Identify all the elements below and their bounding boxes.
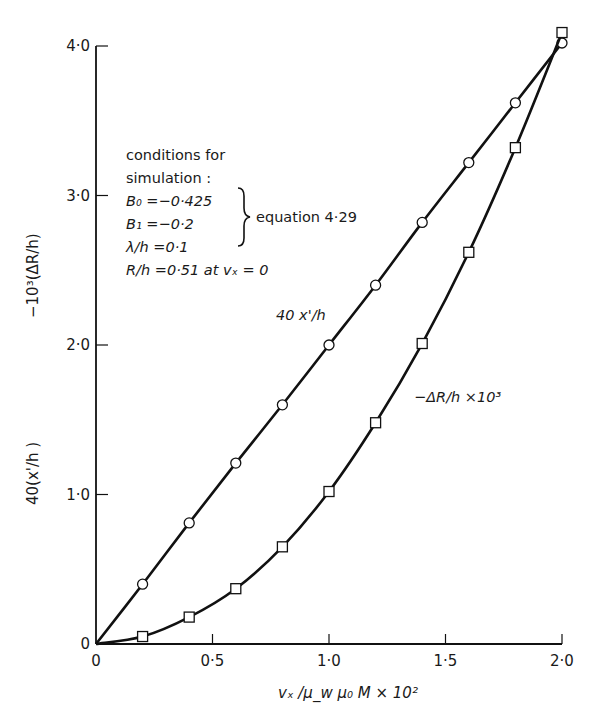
x-tick-label: 1·0 xyxy=(317,652,341,670)
series-label-circle: 40 x'/h xyxy=(276,307,326,323)
circle-marker-icon xyxy=(231,458,241,468)
square-marker-icon xyxy=(277,542,287,552)
square-marker-icon xyxy=(184,612,194,622)
y-tick-label: 3·0 xyxy=(66,187,90,205)
circle-marker-icon xyxy=(417,217,427,227)
conditions-b1: B₁ =−0·2 xyxy=(126,216,194,232)
square-marker-icon xyxy=(557,28,567,38)
square-marker-icon xyxy=(417,339,427,349)
x-tick-label: 0·5 xyxy=(201,652,225,670)
conditions-line-2: simulation : xyxy=(126,170,211,186)
conditions-annotation: conditions for simulation : B₀ =−0·425 B… xyxy=(125,147,357,278)
circle-marker-icon xyxy=(371,280,381,290)
circle-marker-icon xyxy=(138,579,148,589)
y-axis-label-top: −10³(ΔR/h) xyxy=(24,233,42,318)
y-tick-label: 1·0 xyxy=(66,486,90,504)
series-circle xyxy=(96,38,567,644)
circle-marker-icon xyxy=(184,518,194,528)
conditions-b0: B₀ =−0·425 xyxy=(126,193,212,209)
brace-icon xyxy=(238,188,250,246)
chart: 00·51·01·52·001·02·03·04·0 40(x'/h ) −10… xyxy=(0,0,598,723)
y-axis-label-bottom: 40(x'/h ) xyxy=(24,442,42,505)
series-label-square: −ΔR/h ×10³ xyxy=(414,389,501,405)
square-marker-icon xyxy=(510,143,520,153)
circle-marker-icon xyxy=(464,158,474,168)
x-tick-label: 0 xyxy=(91,652,101,670)
square-marker-icon xyxy=(464,247,474,257)
conditions-line-1: conditions for xyxy=(126,147,225,163)
square-marker-icon xyxy=(324,487,334,497)
y-tick-label: 0 xyxy=(80,635,90,653)
conditions-lambda: λ/h =0·1 xyxy=(125,239,188,255)
x-axis-label: vₓ /μ_w μ₀ M × 10² xyxy=(278,684,418,703)
square-marker-icon xyxy=(138,632,148,642)
square-marker-icon xyxy=(371,418,381,428)
series xyxy=(96,28,567,644)
y-tick-label: 4·0 xyxy=(66,37,90,55)
conditions-r-over-h: R/h =0·51 at vₓ = 0 xyxy=(126,262,269,278)
circle-marker-icon xyxy=(277,400,287,410)
square-marker-icon xyxy=(231,584,241,594)
x-tick-label: 1·5 xyxy=(434,652,458,670)
circle-marker-icon xyxy=(324,340,334,350)
ticks: 00·51·01·52·001·02·03·04·0 xyxy=(66,37,574,670)
circle-marker-icon xyxy=(510,98,520,108)
conditions-equation-ref: equation 4·29 xyxy=(256,209,357,225)
y-tick-label: 2·0 xyxy=(66,336,90,354)
x-tick-label: 2·0 xyxy=(550,652,574,670)
